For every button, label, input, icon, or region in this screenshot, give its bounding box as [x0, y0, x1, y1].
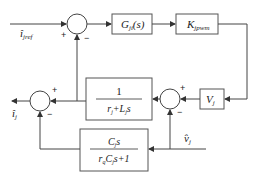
output-current-label: îj [12, 107, 17, 121]
right-summing-junction [160, 89, 180, 109]
left-sum-minus-sign: − [47, 109, 52, 119]
left-sum-plus-sign: + [52, 85, 57, 95]
right-sum-minus-sign: − [177, 107, 182, 117]
pwm-to-voltage-line [218, 24, 247, 99]
left-summing-junction [30, 91, 50, 111]
reference-current-label: îjref [20, 27, 34, 41]
inductor-numerator: 1 [116, 85, 122, 97]
right-sum-plus-sign: + [180, 83, 185, 93]
controller-label: Gji(s) [121, 18, 145, 32]
top-summing-junction [67, 14, 87, 34]
top-sum-plus-sign: + [61, 30, 66, 40]
capacitor-numerator: Cjs [108, 136, 120, 148]
voltage-input-label: v̂j [184, 132, 191, 146]
block-diagram: îjref + − Gji(s) Kjpwm Vj + − 1 rj+Ljs +… [0, 0, 258, 182]
capacitor-to-left-sum-line [40, 112, 80, 149]
inductor-denominator: rj+Ljs [107, 103, 131, 115]
top-sum-minus-sign: − [84, 33, 89, 43]
